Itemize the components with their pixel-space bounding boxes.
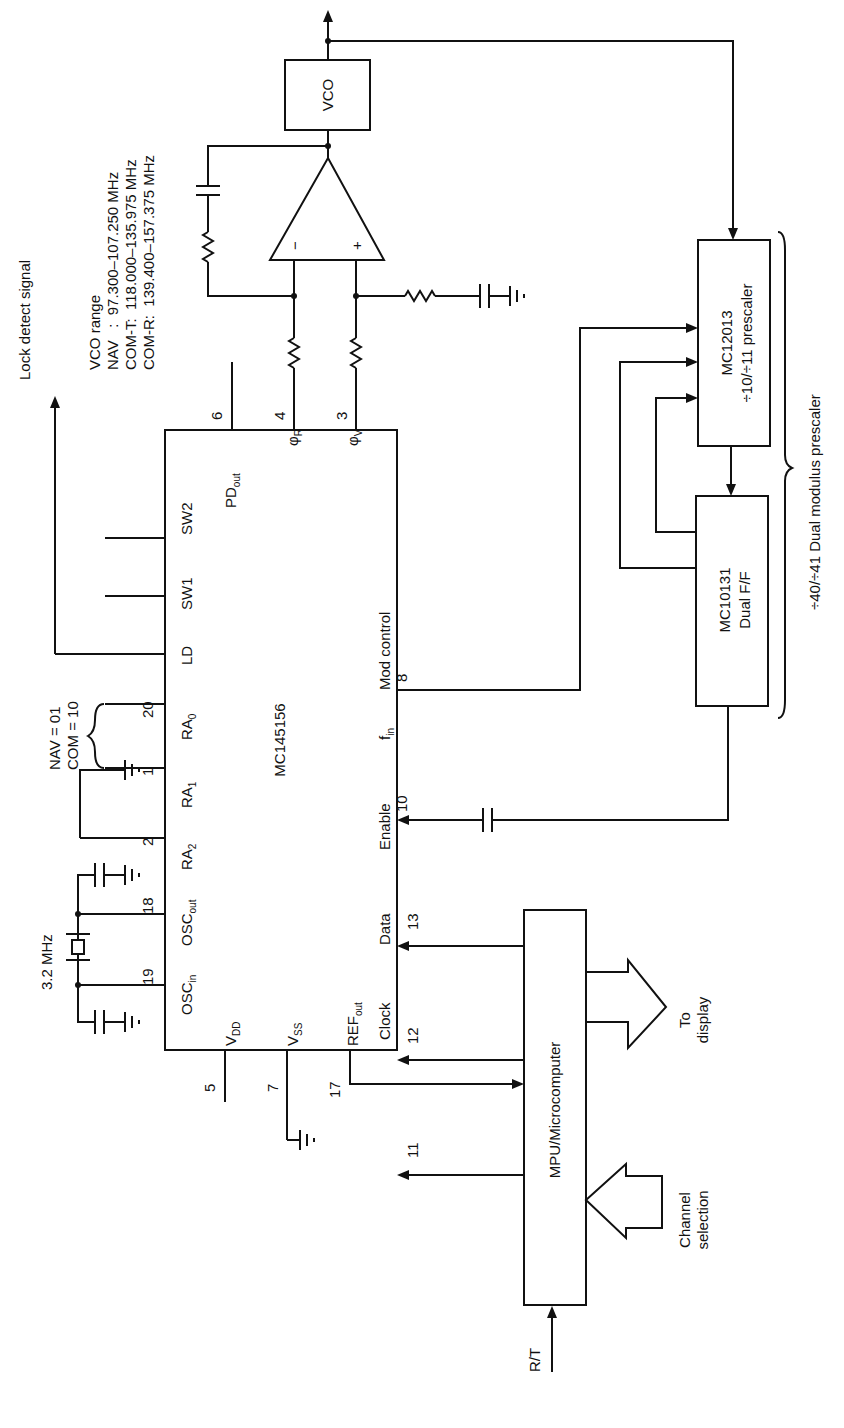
pin-vdd-label: VDD [222, 1022, 242, 1046]
pin-ld-label: LD [178, 646, 195, 665]
crystal-label: 3.2 MHz [38, 934, 55, 990]
pin-ra2-label: RA2 [178, 843, 198, 870]
dual-modulus-brace [778, 232, 792, 718]
pin-4-number: 4 [271, 412, 288, 420]
pin-pd-out-label: PDout [222, 473, 242, 508]
vco-output-arrow-icon [323, 10, 333, 22]
vco-range-com-r: COM-R: 139.400–157.375 MHz [140, 155, 157, 370]
pin-phi-v-label: φV [344, 429, 364, 446]
pin-osc-in-label: OSCin [178, 975, 198, 1015]
pin-19-number: 19 [139, 968, 156, 985]
vco-range-nav: NAV : 97.300–107.250 MHz [104, 172, 121, 370]
pin-11-number: 11 [404, 1142, 421, 1158]
to-display-label-1: To [676, 1012, 693, 1028]
mc145156-label: MC145156 [271, 703, 288, 776]
resistor-phi-v [351, 338, 361, 368]
to-display-arrow-icon [586, 960, 666, 1048]
to-display-label-2: display [694, 996, 711, 1043]
mc12013-label: MC12013 [718, 310, 735, 375]
ra-brace [88, 704, 104, 768]
mc10131-desc: Dual F/F [736, 571, 753, 629]
pin-sw1-label: SW1 [178, 577, 195, 610]
rt-arrow-icon [547, 1306, 557, 1318]
pin-8-number: 8 [393, 674, 410, 682]
pin-1-number: 1 [139, 768, 156, 776]
resistor-bias [405, 291, 435, 301]
resistor-phi-r [289, 338, 299, 368]
vco-range-com-t: COM-T: 118.000–135.975 MHz [122, 159, 139, 370]
pin-clock-label: Clock [376, 1002, 393, 1040]
channel-selection-label-1: Channel [676, 1192, 693, 1248]
pin-6-number: 6 [208, 412, 225, 420]
lock-detect-arrow-icon [50, 396, 60, 408]
pin-mod-control-label: Mod control [376, 612, 393, 690]
pin-18-number: 18 [139, 897, 156, 914]
pin-ra0-label: RA0 [178, 713, 198, 740]
pin-vss-label: VSS [284, 1022, 304, 1046]
ra-code-nav: NAV = 01 [46, 706, 63, 770]
pin-5-number: 5 [201, 1084, 218, 1092]
pin-ra1-label: RA1 [178, 781, 198, 808]
pin-3-number: 3 [333, 412, 350, 420]
pin-12-number: 12 [404, 1027, 421, 1044]
pin-ref-out-label: REFout [344, 1002, 364, 1046]
pin-20-number: 20 [139, 701, 156, 718]
rt-label: R/T [526, 1348, 543, 1372]
pin-10-number: 10 [393, 795, 410, 812]
channel-selection-label-2: selection [694, 1190, 711, 1249]
resistor-feedback [203, 232, 213, 262]
pin-enable-label: Enable [376, 803, 393, 850]
mc12013-desc: ÷10/÷11 prescaler [738, 284, 755, 403]
pin-sw2-label: SW2 [178, 502, 195, 535]
pin-7-number: 7 [264, 1084, 281, 1092]
vco-label: VCO [319, 79, 336, 112]
pin-2-number: 2 [139, 838, 156, 846]
mc10131-label: MC10131 [716, 567, 733, 632]
pin-fin-label: fin [376, 728, 396, 740]
lock-detect-label: Lock detect signal [16, 260, 33, 380]
channel-selection-arrow-icon [586, 1164, 662, 1238]
pin-osc-out-label: OSCout [178, 899, 198, 946]
vco-range-title: VCO range [86, 295, 103, 370]
ra-code-com: COM = 10 [64, 701, 81, 770]
pin-13-number: 13 [404, 913, 421, 930]
opamp-minus: − [286, 241, 303, 250]
mpu-label: MPU/Microcomputer [546, 1042, 563, 1179]
crystal-icon [72, 940, 84, 954]
opamp-plus: + [348, 241, 365, 250]
dual-modulus-label: ÷40/÷41 Dual modulus prescaler [806, 394, 823, 610]
pin-data-label: Data [376, 913, 393, 945]
pin-phi-r-label: φR [284, 429, 304, 446]
pll-circuit-diagram: MC145156 OSCin OSCout RA2 RA1 RA0 LD SW1… [0, 0, 844, 1428]
pin-17-number: 17 [326, 1081, 343, 1098]
